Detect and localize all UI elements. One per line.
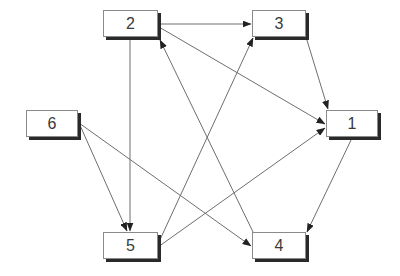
edge-5-to-1 <box>158 128 325 247</box>
node-label: 4 <box>275 237 284 255</box>
node-label: 6 <box>48 115 57 133</box>
edge-6-to-5 <box>79 123 127 231</box>
node-5: 5 <box>103 232 158 259</box>
node-3: 3 <box>252 10 306 37</box>
node-label: 1 <box>348 115 357 133</box>
edge-2-to-1 <box>159 27 325 124</box>
edge-3-to-1 <box>306 37 328 109</box>
edge-6-to-4 <box>79 123 251 246</box>
directed-graph-diagram: 123456 <box>0 0 400 276</box>
node-label: 5 <box>126 237 135 255</box>
node-label: 2 <box>126 15 135 33</box>
node-4: 4 <box>252 232 306 259</box>
node-2: 2 <box>103 10 158 37</box>
node-6: 6 <box>26 110 78 137</box>
node-1: 1 <box>326 110 378 137</box>
edge-1-to-4 <box>307 138 352 232</box>
edges-layer <box>0 0 400 276</box>
node-label: 3 <box>275 15 284 33</box>
